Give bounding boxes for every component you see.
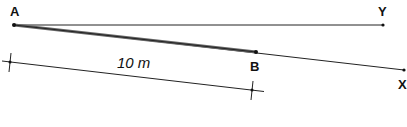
point-a: [12, 23, 16, 27]
diagram-canvas: A B Y X 10 m: [0, 0, 407, 127]
point-b: [254, 50, 258, 54]
segment-a-b-core: [14, 25, 256, 52]
dimension-point-right: [251, 89, 254, 92]
label-b: B: [250, 59, 259, 74]
point-x: [402, 68, 405, 71]
label-a: A: [10, 4, 20, 19]
label-x: X: [398, 77, 407, 92]
point-y: [381, 23, 384, 26]
label-y: Y: [378, 4, 387, 19]
dimension-point-left: [9, 61, 12, 64]
dimension-label: 10 m: [117, 54, 150, 71]
